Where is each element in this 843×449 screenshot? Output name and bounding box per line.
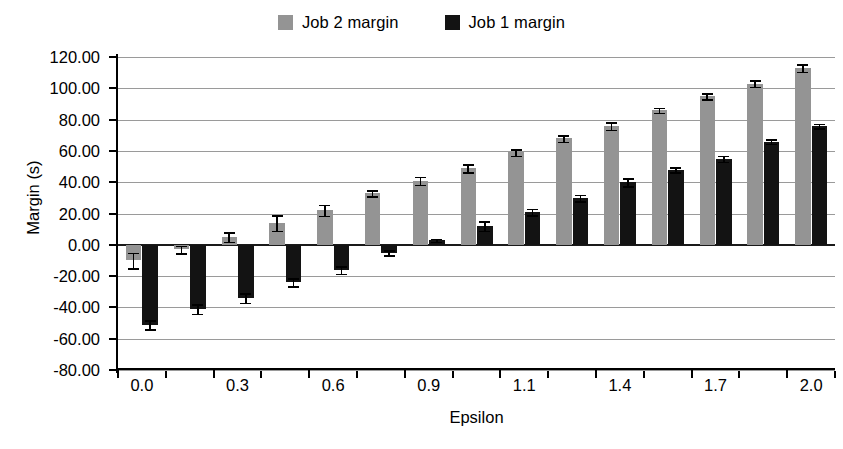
y-axis-tick-label: 20.00 xyxy=(14,206,100,223)
error-bar-cap xyxy=(463,172,474,174)
error-bar-cap xyxy=(272,231,283,233)
y-axis-tick xyxy=(109,306,118,308)
x-axis-tick-label: 0.3 xyxy=(208,377,268,394)
error-bar-cap xyxy=(575,201,586,203)
y-axis-tick xyxy=(109,244,118,246)
error-bar-cap xyxy=(288,278,299,280)
y-axis-tick-label: 60.00 xyxy=(14,143,100,160)
legend-label-job2: Job 2 margin xyxy=(302,14,399,31)
error-bar-line xyxy=(324,205,326,216)
bar-job2 xyxy=(365,193,381,245)
x-axis-tick-label: 0.0 xyxy=(112,377,172,394)
bar-job1 xyxy=(190,245,206,309)
gridline xyxy=(118,370,835,371)
error-bar-cap xyxy=(654,113,665,115)
y-axis-title: Margin (s) xyxy=(24,118,43,278)
y-axis-tick-label: 0.00 xyxy=(14,237,100,254)
x-axis-tick-label: 1.7 xyxy=(686,377,746,394)
x-axis-minor-tick xyxy=(452,371,454,378)
x-axis-minor-tick xyxy=(165,371,167,378)
y-axis-tick-label: 80.00 xyxy=(14,112,100,129)
error-bar-cap xyxy=(240,303,251,305)
y-axis-tick xyxy=(109,213,118,215)
x-axis-minor-tick xyxy=(117,371,119,378)
bar-job2 xyxy=(747,84,763,245)
x-axis-tick-label: 0.9 xyxy=(399,377,459,394)
x-axis-minor-tick xyxy=(308,371,310,378)
y-axis-tick-label: -60.00 xyxy=(14,331,100,348)
bar-job1 xyxy=(716,159,732,245)
chart-legend: Job 2 margin Job 1 margin xyxy=(0,14,843,31)
error-bar-cap xyxy=(192,314,203,316)
error-bar-cap xyxy=(750,87,761,89)
error-bar-cap xyxy=(336,266,347,268)
error-bar-cap xyxy=(240,293,251,295)
y-axis-tick-label: 40.00 xyxy=(14,174,100,191)
error-bar-cap xyxy=(750,80,761,82)
bar-job1 xyxy=(668,170,684,245)
x-axis-tick-label: 0.6 xyxy=(303,377,363,394)
y-axis-tick-label: -80.00 xyxy=(14,362,100,379)
error-bar-cap xyxy=(511,156,522,158)
error-bar-cap xyxy=(176,253,187,255)
error-bar-cap xyxy=(511,149,522,151)
bar-job2 xyxy=(556,138,572,244)
x-axis-minor-tick xyxy=(834,371,836,378)
error-bar-cap xyxy=(479,231,490,233)
legend-item-job1: Job 1 margin xyxy=(445,14,566,31)
y-axis-tick-label: -40.00 xyxy=(14,299,100,316)
y-axis-tick-label: 120.00 xyxy=(14,49,100,66)
error-bar-cap xyxy=(431,239,442,241)
x-axis-minor-tick xyxy=(547,371,549,378)
error-bar-cap xyxy=(367,190,378,192)
x-axis-minor-tick xyxy=(499,371,501,378)
bar-job1 xyxy=(812,126,828,245)
error-bar-cap xyxy=(797,64,808,66)
error-bar-cap xyxy=(479,221,490,223)
bar-job2 xyxy=(461,168,477,245)
bar-job2 xyxy=(604,126,620,245)
y-axis-tick-label: 100.00 xyxy=(14,80,100,97)
error-bar-cap xyxy=(670,172,681,174)
error-bar-cap xyxy=(463,164,474,166)
legend-label-job1: Job 1 margin xyxy=(469,14,566,31)
error-bar-cap xyxy=(431,242,442,244)
x-axis-minor-tick xyxy=(643,371,645,378)
error-bar-cap xyxy=(527,215,538,217)
error-bar-cap xyxy=(575,195,586,197)
bar-job1 xyxy=(764,142,780,245)
error-bar-cap xyxy=(128,253,139,255)
error-bar-cap xyxy=(319,205,330,207)
error-bar-cap xyxy=(415,177,426,179)
error-bar-cap xyxy=(814,128,825,130)
x-axis-minor-tick xyxy=(738,371,740,378)
bar-job1 xyxy=(525,212,541,245)
error-bar-cap xyxy=(224,242,235,244)
error-bar-cap xyxy=(288,286,299,288)
bar-job1 xyxy=(286,245,302,283)
error-bar-cap xyxy=(718,156,729,158)
error-bar-line xyxy=(133,253,135,269)
error-bar-cap xyxy=(272,215,283,217)
bar-job2 xyxy=(700,96,716,245)
chart-figure: Job 2 margin Job 1 margin Margin (s) Eps… xyxy=(0,0,843,449)
x-axis-minor-tick xyxy=(213,371,215,378)
x-axis-tick-label: 2.0 xyxy=(781,377,841,394)
y-axis-tick xyxy=(109,119,118,121)
bar-series-group xyxy=(118,57,835,370)
y-axis-tick-label: -20.00 xyxy=(14,268,100,285)
x-axis-title: Epsilon xyxy=(118,408,835,427)
bar-job2 xyxy=(413,181,429,245)
x-axis-tick-label: 1.1 xyxy=(494,377,554,394)
bar-job2 xyxy=(508,152,524,244)
y-axis-tick xyxy=(109,338,118,340)
error-bar-cap xyxy=(384,255,395,257)
error-bar-cap xyxy=(623,186,634,188)
error-bar-cap xyxy=(814,124,825,126)
x-axis-minor-tick xyxy=(691,371,693,378)
error-bar-cap xyxy=(654,108,665,110)
bar-job2 xyxy=(652,110,668,245)
square-swatch-icon xyxy=(445,15,460,30)
error-bar-cap xyxy=(192,304,203,306)
error-bar-cap xyxy=(718,162,729,164)
